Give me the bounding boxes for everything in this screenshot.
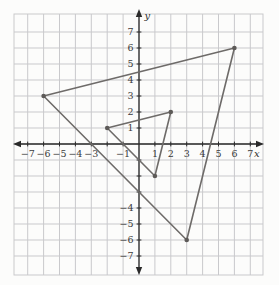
y-tick-label: 5: [127, 58, 133, 69]
coordinate-plane: −7−6−5−4−3−11234567−7−6−5−41234567xy: [0, 0, 279, 285]
x-axis-letter: x: [254, 148, 260, 159]
x-tick-label: −6: [37, 148, 51, 159]
x-tick-label: 7: [247, 148, 253, 159]
axes: [18, 15, 259, 269]
y-tick-label: −7: [119, 250, 133, 261]
small-triangle-vertex-dot: [153, 174, 158, 179]
y-tick-label: −6: [119, 234, 133, 245]
y-axis-arrow-bottom: [136, 267, 142, 275]
x-tick-label: 6: [231, 148, 237, 159]
y-tick-label: 7: [127, 26, 133, 37]
x-tick-label: 5: [215, 148, 221, 159]
y-axis-arrow-top: [136, 9, 142, 17]
large-triangle-vertex-dot: [184, 238, 189, 243]
y-tick-label: −5: [119, 218, 133, 229]
x-tick-label: −5: [52, 148, 66, 159]
y-tick-label: −4: [119, 202, 133, 213]
x-tick-label: 2: [168, 148, 174, 159]
x-tick-label: 4: [200, 148, 206, 159]
x-tick-label: −4: [68, 148, 82, 159]
x-tick-label: −7: [21, 148, 35, 159]
small-triangle-vertex-dot: [105, 126, 110, 131]
y-tick-label: 6: [127, 42, 133, 53]
y-tick-label: 2: [127, 106, 133, 117]
y-tick-label: 4: [127, 74, 133, 85]
y-tick-label: 3: [127, 90, 133, 101]
x-tick-label: 1: [152, 148, 158, 159]
large-triangle-vertex-dot: [232, 46, 237, 51]
large-triangle-vertex-dot: [41, 94, 46, 99]
small-triangle-vertex-dot: [169, 110, 174, 115]
y-axis-letter: y: [144, 10, 151, 21]
coordinate-plane-figure: −7−6−5−4−3−11234567−7−6−5−41234567xy: [0, 0, 279, 285]
y-tick-label: 1: [127, 122, 133, 133]
x-tick-label: 3: [184, 148, 190, 159]
